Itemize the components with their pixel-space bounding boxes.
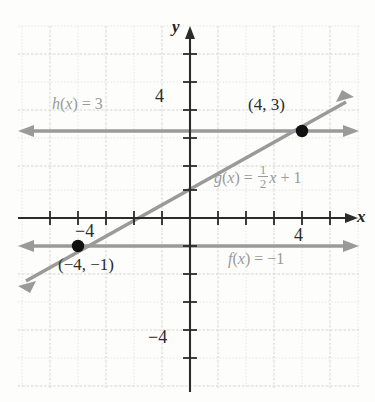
y-tick-label-4: 4 (155, 87, 164, 105)
g-variable: x (227, 169, 234, 186)
g-function-name: g (214, 169, 222, 186)
function-label-f: f(x) = −1 (228, 251, 284, 267)
graph-figure: x y 4 −4 4 −4 h(x) = 3 f(x) = −1 g(x) = … (0, 0, 375, 402)
coordinate-plane (0, 0, 375, 402)
y-axis-label: y (172, 18, 180, 35)
point-label-neg4-neg1: (−4, −1) (58, 256, 114, 273)
h-rhs: = 3 (82, 95, 103, 112)
x-tick-label-neg4: −4 (75, 222, 94, 240)
axis-lines (18, 34, 351, 392)
x-axis-label: x (357, 208, 366, 225)
point-label-4-3: (4, 3) (248, 96, 285, 113)
g-equals: = (244, 169, 253, 186)
h-variable: x (65, 95, 72, 112)
f-function-name: f (228, 250, 232, 267)
data-point-4-3 (296, 125, 308, 137)
function-label-g: g(x) = 12x + 1 (214, 163, 302, 191)
g-x-term: x (269, 169, 276, 186)
g-fraction-one-half: 12 (258, 163, 269, 191)
y-axis-arrow (185, 26, 195, 39)
x-tick-label-4: 4 (294, 226, 303, 244)
y-tick-label-neg4: −4 (148, 328, 167, 346)
g-fraction-denominator: 2 (258, 176, 269, 190)
h-function-name: h (52, 95, 60, 112)
f-rhs: = −1 (254, 250, 284, 267)
f-variable: x (238, 250, 245, 267)
data-point-neg4-neg1 (72, 240, 84, 252)
g-fraction-numerator: 1 (258, 163, 269, 176)
function-label-h: h(x) = 3 (52, 96, 103, 112)
g-tail: + 1 (280, 169, 301, 186)
